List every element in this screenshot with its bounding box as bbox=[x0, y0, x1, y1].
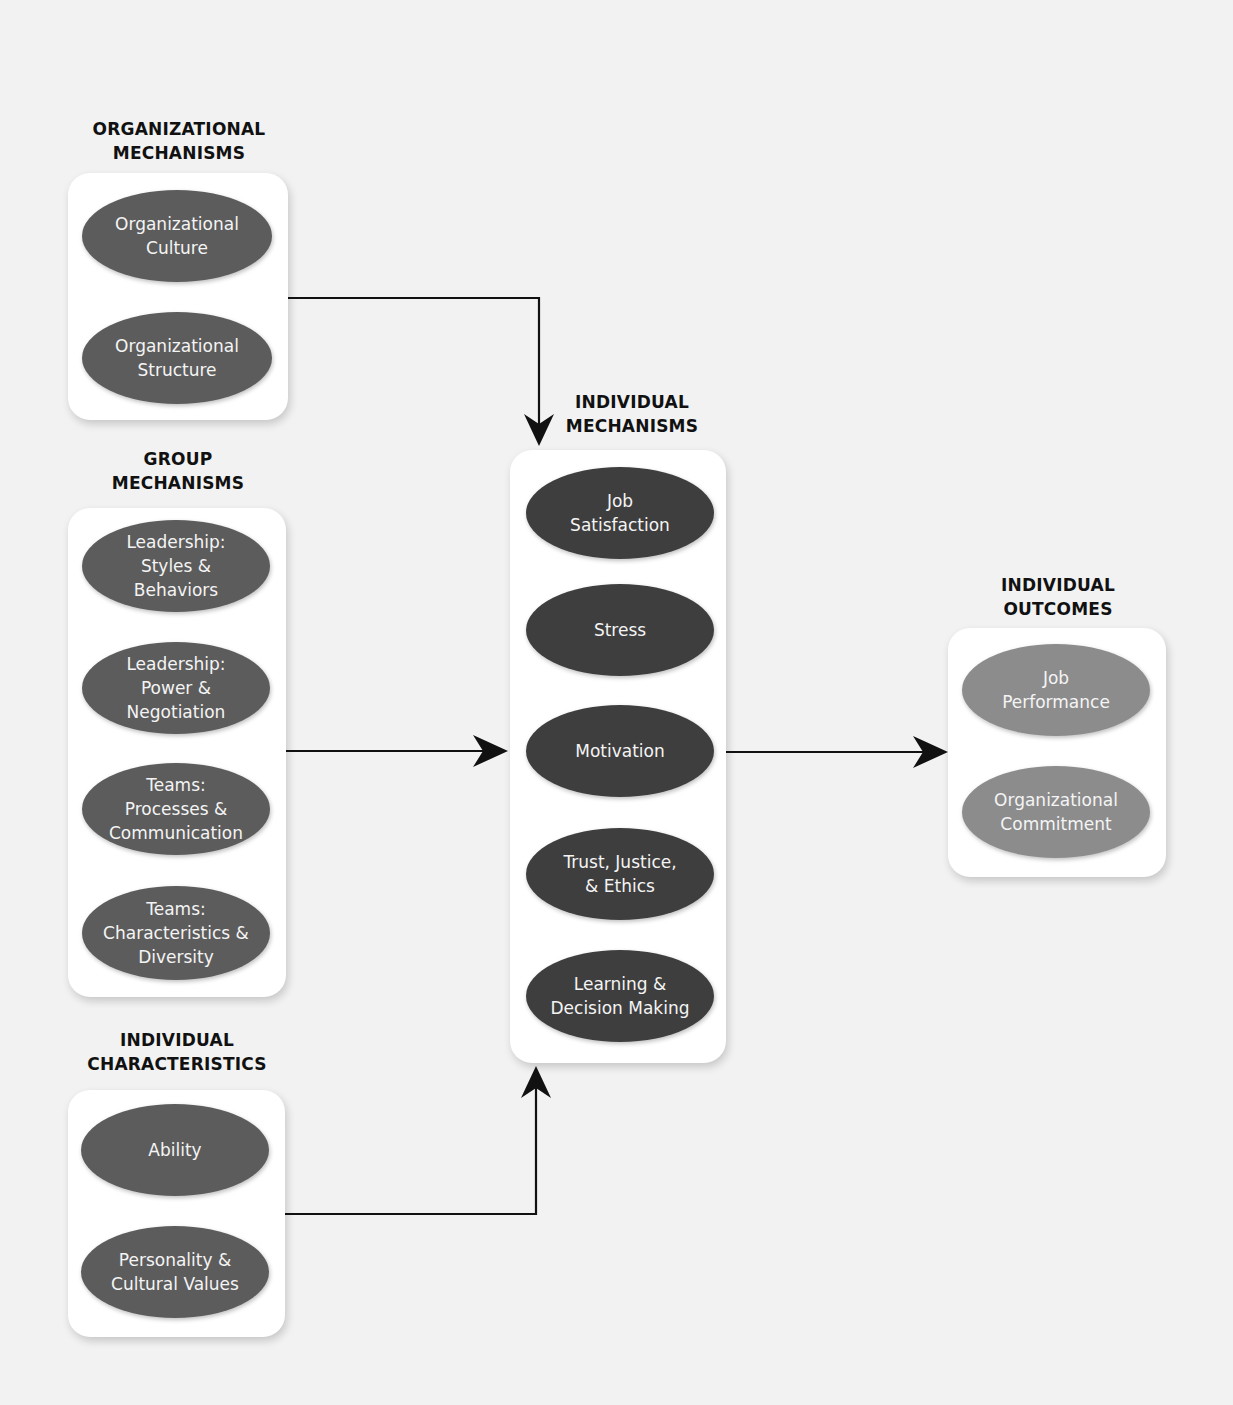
node-organizational-structure: Organizational Structure bbox=[82, 312, 272, 404]
node-job-performance: Job Performance bbox=[962, 644, 1150, 736]
node-personality-cultural-values: Personality & Cultural Values bbox=[81, 1226, 269, 1318]
arrowhead-up-icon bbox=[521, 1066, 551, 1098]
node-stress: Stress bbox=[526, 584, 714, 676]
node-teams-characteristics-diversity: Teams: Characteristics & Diversity bbox=[82, 886, 270, 980]
arrowhead-right-icon bbox=[913, 736, 948, 768]
node-ability: Ability bbox=[81, 1104, 269, 1196]
arrow-organizational-to-individual bbox=[288, 298, 554, 446]
node-motivation: Motivation bbox=[526, 705, 714, 797]
node-leadership-power-negotiation: Leadership: Power & Negotiation bbox=[82, 642, 270, 734]
node-trust-justice-ethics: Trust, Justice, & Ethics bbox=[526, 828, 714, 920]
heading-group-mechanisms: GROUP MECHANISMS bbox=[68, 447, 288, 495]
node-teams-processes-communication: Teams: Processes & Communication bbox=[82, 763, 270, 855]
node-learning-decision-making: Learning & Decision Making bbox=[526, 950, 714, 1042]
node-organizational-culture: Organizational Culture bbox=[82, 190, 272, 282]
arrowhead-right-icon bbox=[473, 735, 508, 767]
arrow-individual-to-outcomes bbox=[726, 736, 948, 768]
arrow-characteristics-to-individual bbox=[285, 1066, 551, 1214]
heading-individual-characteristics: INDIVIDUAL CHARACTERISTICS bbox=[60, 1028, 294, 1076]
heading-individual-mechanisms: INDIVIDUAL MECHANISMS bbox=[540, 390, 724, 438]
node-leadership-styles-behaviors: Leadership: Styles & Behaviors bbox=[82, 520, 270, 612]
heading-individual-outcomes: INDIVIDUAL OUTCOMES bbox=[960, 573, 1156, 621]
heading-organizational-mechanisms: ORGANIZATIONAL MECHANISMS bbox=[68, 117, 290, 165]
node-organizational-commitment: Organizational Commitment bbox=[962, 766, 1150, 858]
node-job-satisfaction: Job Satisfaction bbox=[526, 467, 714, 559]
arrow-group-to-individual bbox=[286, 735, 508, 767]
